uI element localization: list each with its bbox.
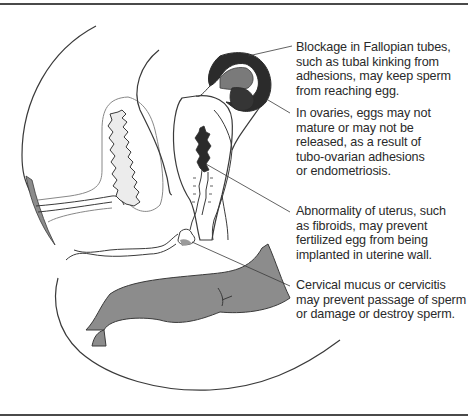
leader-ovaries	[268, 100, 290, 113]
callout-uterus: Abnormality of uterus, such as fibroids,…	[296, 204, 446, 262]
callout-fallopian-tubes: Blockage in Fallopian tubes, such as tub…	[296, 40, 451, 98]
callout-cervix: Cervical mucus or cervicitis may prevent…	[296, 278, 466, 322]
callout-ovaries: In ovaries, eggs may not mature or may n…	[296, 106, 431, 179]
urethra	[36, 196, 124, 206]
rectum	[86, 244, 290, 330]
vagina	[74, 234, 178, 252]
leader-fallopian	[248, 46, 292, 56]
bladder-lumen	[108, 110, 140, 206]
abdomen-outline	[22, 26, 96, 192]
anal-canal	[92, 330, 106, 346]
peritoneal-fold	[137, 50, 172, 195]
ovary	[230, 88, 254, 111]
